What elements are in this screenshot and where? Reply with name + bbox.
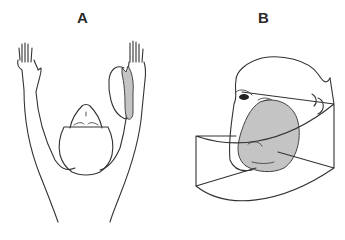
left-eye — [239, 94, 249, 100]
curved-box — [196, 78, 334, 201]
shaded-region-a — [122, 66, 133, 119]
figure-illustration — [0, 0, 345, 240]
panel-a-monkey-top-view — [18, 41, 146, 222]
shaded-region-b — [238, 100, 299, 172]
left-arm — [18, 43, 75, 222]
face-detail — [74, 112, 98, 125]
panel-b-head-view — [196, 57, 334, 201]
ear — [312, 94, 323, 114]
